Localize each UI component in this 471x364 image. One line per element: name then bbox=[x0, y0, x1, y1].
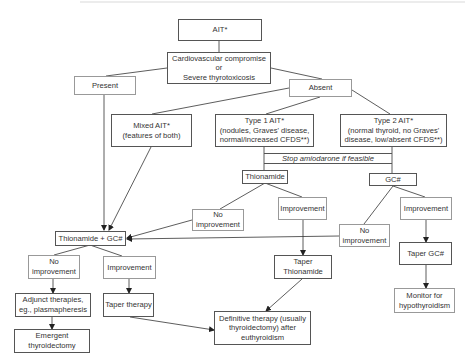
node-absent: Absent bbox=[289, 79, 352, 97]
node-mixed-ait: Mixed AIT* (features of both) bbox=[111, 114, 192, 147]
node-no-improvement-left: No improvement bbox=[28, 255, 80, 279]
node-type1-ait: Type 1 AIT* (nodules, Graves' disease, n… bbox=[215, 114, 314, 147]
node-definitive-therapy: Definitive therapy (usually thyroidectom… bbox=[214, 311, 311, 345]
node-no-improvement-mid: No improvement bbox=[192, 209, 244, 231]
node-emergent-thyroidectomy: Emergent thyroidectomy bbox=[14, 329, 90, 353]
node-improvement-right: Improvement bbox=[400, 197, 452, 220]
node-improvement-left: Improvement bbox=[103, 256, 156, 279]
node-taper-thionamide: Taper Thionamide bbox=[274, 255, 332, 279]
node-monitor-hypothyroidism: Monitor for hypothyroidism bbox=[394, 288, 455, 313]
node-thionamide: Thionamide bbox=[242, 170, 288, 184]
node-present: Present bbox=[74, 76, 136, 95]
node-adjunct-therapies: Adjunct therapies, eg., plasmapheresis bbox=[15, 293, 91, 317]
node-improvement-mid: Improvement bbox=[278, 197, 327, 220]
node-gc: GC# bbox=[369, 173, 417, 186]
node-ait: AIT* bbox=[178, 19, 262, 41]
node-no-improvement-right: No improvement bbox=[339, 224, 390, 247]
node-taper-therapy: Taper therapy bbox=[103, 293, 154, 317]
node-thionamide-gc: Thionamide + GC# bbox=[55, 231, 126, 246]
stop-amiodarone-bar: Stop amiodarone if feasible bbox=[264, 153, 392, 164]
node-cardiovascular-compromise: Cardiovascular compromise or Severe thyr… bbox=[167, 52, 271, 84]
node-taper-gc: Taper GC# bbox=[399, 242, 452, 265]
node-type2-ait: Type 2 AIT* (normal thyroid, no Graves' … bbox=[340, 114, 447, 147]
